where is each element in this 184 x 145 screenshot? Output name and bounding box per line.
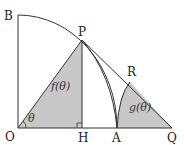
label-f-theta: f(θ) bbox=[50, 80, 70, 93]
arc-PA bbox=[82, 40, 117, 128]
label-O: O bbox=[5, 130, 15, 144]
label-B: B bbox=[4, 9, 13, 23]
label-A: A bbox=[111, 131, 121, 145]
label-R: R bbox=[127, 65, 137, 79]
label-P: P bbox=[78, 25, 86, 39]
label-theta: θ bbox=[28, 112, 35, 125]
label-g-theta: g(θ) bbox=[129, 101, 151, 114]
geometry-diagram: B P R O H A Q θ f(θ) g(θ) bbox=[0, 0, 184, 145]
label-Q: Q bbox=[167, 131, 177, 145]
label-H: H bbox=[78, 131, 88, 145]
